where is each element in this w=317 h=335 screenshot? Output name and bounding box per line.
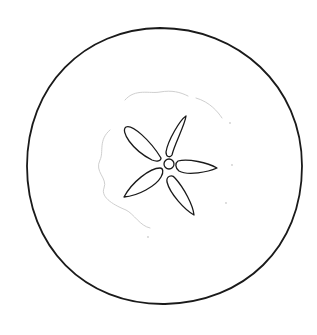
speckle-dot <box>225 202 227 204</box>
seed-petal-right <box>176 160 217 173</box>
speckle-dot <box>147 236 149 238</box>
speckle-dot <box>231 164 233 166</box>
seed-petal-lower-left <box>124 168 163 197</box>
apple-drawing-canvas <box>0 0 317 335</box>
seed-petal-upper-right <box>166 116 186 157</box>
seed-petal-upper-left <box>124 127 161 161</box>
apple-cross-section-illustration <box>0 0 317 335</box>
seed-petal-lower-right <box>167 176 194 215</box>
seed-cavity-star <box>124 116 217 215</box>
center-seed-ring <box>164 159 174 169</box>
speckle-dot <box>229 122 231 124</box>
speckle-dots <box>147 122 233 238</box>
